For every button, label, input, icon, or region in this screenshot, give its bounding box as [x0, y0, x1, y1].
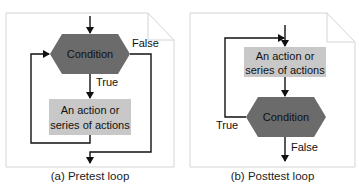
- false-label: False: [291, 141, 318, 153]
- action-label-line2: series of actions: [50, 119, 130, 131]
- action-label-line1: An action or: [256, 50, 315, 62]
- true-label: True: [216, 119, 238, 131]
- action-label-line2: series of actions: [245, 64, 325, 76]
- action-label-line1: An action or: [61, 104, 120, 116]
- pretest-caption: (a) Pretest loop: [6, 170, 174, 182]
- posttest-caption: (b) Posttest loop: [190, 170, 355, 182]
- condition-label: Condition: [263, 111, 309, 123]
- loop-diagrams: Condition True An action or series of ac…: [0, 0, 359, 191]
- condition-label: Condition: [67, 48, 113, 60]
- pretest-loop-diagram: Condition True An action or series of ac…: [6, 13, 174, 167]
- true-label: True: [96, 76, 118, 88]
- posttest-loop-diagram: An action or series of actions Condition…: [190, 13, 355, 167]
- false-label: False: [132, 37, 159, 49]
- panel-b-border: [190, 13, 355, 167]
